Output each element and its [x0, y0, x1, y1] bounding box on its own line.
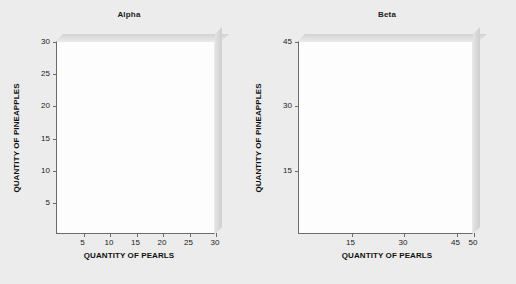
- x-tick-label-alpha: 15: [131, 238, 140, 247]
- plot-area-alpha: [56, 41, 215, 234]
- y-tick-label-beta: 45: [270, 37, 292, 46]
- y-tick-label-beta: 15: [270, 165, 292, 174]
- plot-bevel-top-beta: [298, 34, 487, 41]
- x-axis-title-beta: QUANTITY OF PEARLS: [258, 251, 516, 260]
- y-tick-label-alpha: 5: [28, 197, 50, 206]
- chart-panel-beta: Beta QUANTITY OF PEARLS QUANTITY OF PINE…: [258, 0, 516, 284]
- plot-bevel-right-beta: [473, 27, 480, 234]
- y-tick-alpha: [53, 171, 57, 172]
- y-tick-alpha: [53, 42, 57, 43]
- x-tick-label-alpha: 30: [211, 238, 220, 247]
- y-axis-title-alpha: QUANTITY OF PINEAPPLES: [12, 83, 21, 192]
- x-tick-alpha: [137, 233, 138, 237]
- y-tick-beta: [295, 106, 299, 107]
- y-tick-label-alpha: 15: [28, 133, 50, 142]
- x-tick-alpha: [84, 233, 85, 237]
- y-tick-beta: [295, 42, 299, 43]
- plot-bevel-top-alpha: [56, 34, 229, 41]
- y-tick-label-alpha: 30: [28, 37, 50, 46]
- x-axis-title-alpha: QUANTITY OF PEARLS: [0, 251, 258, 260]
- plot-frame-beta: [298, 34, 480, 234]
- x-tick-beta: [352, 233, 353, 237]
- y-tick-label-alpha: 25: [28, 69, 50, 78]
- x-tick-label-beta: 50: [469, 238, 478, 247]
- y-tick-alpha: [53, 203, 57, 204]
- x-tick-alpha: [216, 233, 217, 237]
- x-tick-alpha: [190, 233, 191, 237]
- y-tick-alpha: [53, 74, 57, 75]
- plot-area-beta: [298, 41, 473, 234]
- y-tick-alpha: [53, 139, 57, 140]
- x-tick-label-beta: 15: [346, 238, 355, 247]
- chart-title-beta: Beta: [258, 10, 516, 19]
- y-tick-label-alpha: 10: [28, 165, 50, 174]
- x-tick-label-alpha: 10: [105, 238, 114, 247]
- x-tick-beta: [474, 233, 475, 237]
- plot-bevel-right-alpha: [215, 27, 222, 234]
- y-tick-label-beta: 30: [270, 101, 292, 110]
- chart-panel-alpha: Alpha QUANTITY OF PEARLS QUANTITY OF PIN…: [0, 0, 258, 284]
- y-axis-title-beta: QUANTITY OF PINEAPPLES: [254, 83, 263, 192]
- y-tick-label-alpha: 20: [28, 101, 50, 110]
- x-tick-beta: [457, 233, 458, 237]
- chart-title-alpha: Alpha: [0, 10, 258, 19]
- y-tick-alpha: [53, 106, 57, 107]
- x-tick-label-alpha: 25: [184, 238, 193, 247]
- figure-canvas: Alpha QUANTITY OF PEARLS QUANTITY OF PIN…: [0, 0, 516, 284]
- x-tick-label-alpha: 5: [80, 238, 84, 247]
- x-tick-alpha: [110, 233, 111, 237]
- x-tick-beta: [404, 233, 405, 237]
- x-tick-label-alpha: 20: [158, 238, 167, 247]
- plot-frame-alpha: [56, 34, 222, 234]
- x-tick-alpha: [163, 233, 164, 237]
- y-tick-beta: [295, 171, 299, 172]
- x-tick-label-beta: 45: [451, 238, 460, 247]
- x-tick-label-beta: 30: [399, 238, 408, 247]
